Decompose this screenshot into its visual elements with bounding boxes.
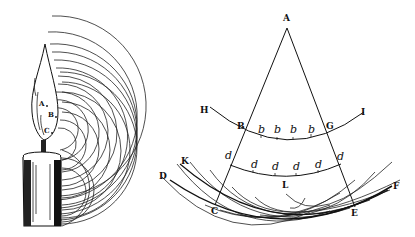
label-d-1: d [251, 158, 258, 171]
label-G: G [326, 121, 334, 131]
label-B-left: B [48, 110, 54, 119]
label-A-left: A [38, 99, 45, 108]
label-K: K [181, 156, 190, 166]
label-D: D [159, 171, 167, 181]
candle-wavefronts [48, 16, 146, 226]
label-b-1: b [258, 123, 265, 136]
label-d-2: d [272, 160, 279, 173]
arc-HI [210, 107, 364, 140]
label-b-3: b [290, 123, 297, 136]
label-d-right: d [337, 150, 344, 163]
candle-shadow-right [54, 160, 61, 226]
label-A: A [282, 13, 291, 23]
d-ticks [253, 170, 318, 176]
label-I: I [361, 107, 365, 117]
label-L: L [282, 180, 289, 190]
label-d-4: d [315, 158, 322, 171]
diagram-canvas: A B C [0, 0, 415, 237]
label-d-3: d [293, 160, 300, 173]
candle-shadow-left [24, 160, 31, 226]
label-C: C [211, 206, 218, 216]
label-E: E [351, 208, 358, 218]
secondary-wavelets [162, 162, 400, 225]
arc-dd [230, 164, 341, 176]
huygens-figure: A H I B G b b b b d d d d d d D K F L C … [159, 13, 400, 225]
label-C-left: C [44, 126, 50, 135]
label-H: H [200, 105, 209, 115]
label-d-left: d [225, 149, 232, 162]
label-F: F [393, 181, 400, 191]
line-AE [287, 28, 355, 207]
candle-figure: A B C [23, 16, 146, 226]
label-b-2: b [274, 123, 281, 136]
line-AC [215, 28, 287, 205]
label-B: B [237, 121, 245, 131]
label-b-4: b [308, 123, 315, 136]
